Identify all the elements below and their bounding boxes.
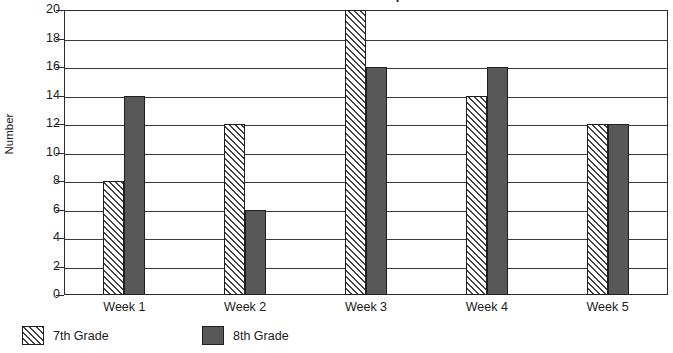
y-tick-label: 8	[26, 174, 60, 187]
plot-area	[64, 10, 668, 295]
bar-chart-figure: Students per Week Number 7th Grade 8th G…	[0, 0, 673, 353]
x-tick-label: Week 1	[64, 300, 184, 314]
y-tick-label: 2	[26, 260, 60, 273]
y-tick-label: 12	[26, 117, 60, 130]
legend-swatch-8th-grade	[202, 326, 224, 345]
y-tick-mark	[56, 10, 64, 11]
y-tick-label: 18	[26, 32, 60, 45]
gridline	[65, 268, 667, 269]
gridline	[65, 97, 667, 98]
legend-entry-8th-grade: 8th Grade	[202, 326, 289, 345]
legend-swatch-7th-grade	[22, 326, 44, 345]
y-tick-mark	[56, 210, 64, 211]
y-tick-mark	[56, 39, 64, 40]
legend-label-8th-grade: 8th Grade	[233, 329, 289, 343]
y-tick-mark	[56, 124, 64, 125]
gridline	[65, 40, 667, 41]
y-tick-label: 16	[26, 60, 60, 73]
y-tick-label: 0	[26, 288, 60, 301]
x-tick-label: Week 3	[306, 300, 426, 314]
x-tick-label: Week 2	[185, 300, 305, 314]
gridline	[65, 154, 667, 155]
gridline	[65, 239, 667, 240]
gridline	[65, 182, 667, 183]
y-tick-mark	[56, 96, 64, 97]
y-tick-mark	[56, 67, 64, 68]
y-tick-mark	[56, 238, 64, 239]
gridline	[65, 211, 667, 212]
chart-title: Students per Week	[245, 0, 545, 2]
y-tick-mark	[56, 153, 64, 154]
y-tick-label: 4	[26, 231, 60, 244]
chart-legend: 7th Grade 8th Grade	[0, 326, 673, 353]
y-tick-mark	[56, 181, 64, 182]
gridline	[65, 125, 667, 126]
legend-entry-7th-grade: 7th Grade	[22, 326, 109, 345]
y-axis-title: Number	[3, 99, 15, 169]
y-tick-label: 20	[26, 3, 60, 16]
y-tick-mark	[56, 267, 64, 268]
legend-label-7th-grade: 7th Grade	[53, 329, 109, 343]
y-tick-mark	[56, 295, 64, 296]
y-tick-label: 6	[26, 203, 60, 216]
x-tick-label: Week 5	[548, 300, 668, 314]
x-tick-label: Week 4	[427, 300, 547, 314]
y-tick-label: 10	[26, 146, 60, 159]
gridline	[65, 68, 667, 69]
y-tick-label: 14	[26, 89, 60, 102]
